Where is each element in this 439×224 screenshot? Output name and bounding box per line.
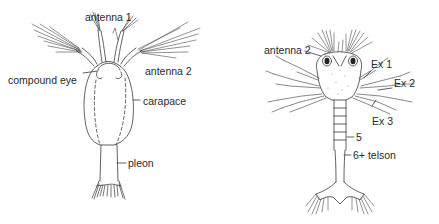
label-ex-2: Ex 2 bbox=[394, 78, 415, 89]
label-antenna-2-left: antenna 2 bbox=[145, 66, 192, 77]
label-antenna-2-right: antenna 2 bbox=[264, 45, 311, 56]
larval-crustacean-figure: antenna 1 antenna 2 compound eye carapac… bbox=[0, 0, 439, 224]
label-pleon: pleon bbox=[128, 158, 154, 169]
label-antenna-1: antenna 1 bbox=[85, 12, 132, 23]
label-ex-3: Ex 3 bbox=[372, 116, 393, 127]
label-ex-1: Ex 1 bbox=[371, 59, 392, 70]
label-segment-6-telson: 6+ telson bbox=[353, 150, 396, 161]
label-segment-5: 5 bbox=[356, 132, 362, 143]
label-compound-eye: compound eye bbox=[8, 75, 77, 86]
label-carapace: carapace bbox=[143, 96, 186, 107]
figure-drawing bbox=[0, 0, 439, 224]
